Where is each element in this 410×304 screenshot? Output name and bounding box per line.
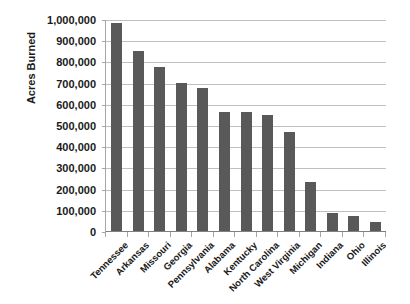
x-tickmark (191, 232, 192, 237)
x-tickmark (148, 232, 149, 237)
x-tickmark (105, 232, 106, 237)
y-tick-label: 800,000 (56, 57, 96, 68)
x-tickmark (277, 232, 278, 237)
x-tickmark (256, 232, 257, 237)
y-tick-label: 100,000 (56, 205, 96, 216)
x-tickmark (363, 232, 364, 237)
x-axis-category-labels: TennesseeArkansasMissouriGeorgiaPennsylv… (0, 238, 410, 304)
x-tickmark (170, 232, 171, 237)
plot-area (105, 20, 386, 232)
bar (262, 115, 273, 232)
y-tick-label: 300,000 (56, 163, 96, 174)
bar-series (106, 20, 386, 232)
y-tick-label: 600,000 (56, 99, 96, 110)
x-tickmark (234, 232, 235, 237)
y-tick-label: 1,000,000 (47, 15, 96, 26)
y-tick-label: 900,000 (56, 36, 96, 47)
y-tick-label: 700,000 (56, 78, 96, 89)
bar (154, 67, 165, 232)
y-tick-label: 0 (90, 227, 96, 238)
bar (348, 216, 359, 232)
x-tickmark (385, 232, 386, 237)
bar (176, 83, 187, 232)
bar (111, 23, 122, 232)
bar (327, 213, 338, 232)
y-tick-label: 400,000 (56, 142, 96, 153)
bar (241, 112, 252, 232)
x-tickmark (213, 232, 214, 237)
x-tickmark (320, 232, 321, 237)
x-tickmark (127, 232, 128, 237)
y-tick-label: 200,000 (56, 184, 96, 195)
bar (219, 112, 230, 232)
x-tickmark (342, 232, 343, 237)
bar-chart: Acres Burned 1,000,000900,000800,000700,… (0, 0, 410, 304)
x-tickmark (299, 232, 300, 237)
bar (197, 88, 208, 232)
bar (284, 132, 295, 232)
x-axis-tickmarks (105, 232, 386, 237)
y-axis-tick-labels: 1,000,000900,000800,000700,000600,000500… (34, 20, 102, 232)
bar (305, 182, 316, 232)
bar (133, 51, 144, 232)
y-tick-label: 500,000 (56, 121, 96, 132)
